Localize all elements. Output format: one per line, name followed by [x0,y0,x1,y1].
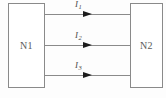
node-label-n1: N1 [20,40,33,51]
connection-wire-2: I2 [45,45,130,46]
node-block-n1: N1 [8,3,45,88]
current-symbol-1: I [75,0,78,9]
current-label-3: I3 [75,60,81,70]
arrowhead-right-icon-2 [83,42,92,48]
current-symbol-2: I [75,30,78,40]
node-label-n2: N2 [140,40,153,51]
arrowhead-right-icon-3 [83,72,92,78]
current-label-2: I2 [75,30,81,40]
connection-wire-1: I1 [45,14,130,15]
connection-wire-3: I3 [45,75,130,76]
diagram-canvas: N1 N2 I1 I2 I3 [0,0,166,98]
current-subscript-2: 2 [79,34,82,41]
arrowhead-right-icon-1 [83,11,92,17]
node-block-n2: N2 [130,3,163,88]
current-subscript-1: 1 [79,3,82,10]
current-symbol-3: I [75,60,78,70]
current-subscript-3: 3 [79,64,82,71]
current-label-1: I1 [75,0,81,9]
